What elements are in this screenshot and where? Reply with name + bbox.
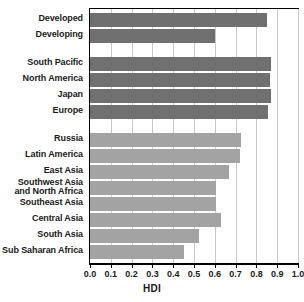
x-tick-label: 0.6: [209, 269, 222, 279]
bar-row: [90, 89, 298, 103]
category-label: Sub Saharan Africa: [2, 246, 83, 256]
x-tick-label: 0.0: [84, 269, 97, 279]
x-tick: [256, 263, 257, 268]
x-tick-label: 0.9: [271, 269, 284, 279]
bar-row: [90, 197, 298, 211]
bar: [90, 213, 221, 227]
plot-area: [89, 8, 299, 264]
bar-row: [90, 229, 298, 243]
category-label: Japan: [57, 90, 83, 100]
x-tick-label: 0.1: [105, 269, 118, 279]
category-label-column: DevelopedDevelopingSouth PacificNorth Am…: [0, 8, 86, 262]
bar-row: [90, 29, 298, 43]
bar-row: [90, 57, 298, 71]
x-tick-label: 0.3: [146, 269, 159, 279]
bar: [90, 105, 268, 119]
category-label: South Pacific: [27, 58, 83, 68]
bar: [90, 89, 271, 103]
bar-row: [90, 73, 298, 87]
bar: [90, 29, 215, 43]
bar-row: [90, 181, 298, 195]
category-label: North America: [23, 74, 83, 84]
category-label: Latin America: [25, 150, 83, 160]
x-tick-label: 0.7: [229, 269, 242, 279]
bar: [90, 73, 270, 87]
x-tick-label: 0.5: [188, 269, 201, 279]
bar-row: [90, 165, 298, 179]
category-label: Developed: [38, 14, 83, 24]
x-tick: [152, 263, 153, 268]
bar: [90, 229, 199, 243]
bar: [90, 13, 267, 27]
category-label: Southeast Asia: [20, 198, 83, 208]
category-label: Developing: [35, 30, 83, 40]
category-label: South Asia: [37, 230, 83, 240]
x-tick-label: 0.8: [250, 269, 263, 279]
bar: [90, 197, 216, 211]
bar-row: [90, 149, 298, 163]
bar: [90, 149, 240, 163]
x-tick: [277, 263, 278, 268]
gridline-1.0: [298, 9, 299, 263]
category-label: Russia: [54, 134, 83, 144]
x-axis-title: HDI: [0, 283, 304, 294]
category-label: Central Asia: [32, 214, 83, 224]
x-tick: [173, 263, 174, 268]
x-tick: [236, 263, 237, 268]
x-tick: [215, 263, 216, 268]
bar-row: [90, 105, 298, 119]
x-tick: [90, 263, 91, 268]
category-label: Europe: [53, 106, 83, 116]
x-tick: [298, 263, 299, 268]
bar-row: [90, 13, 298, 27]
x-tick: [132, 263, 133, 268]
bar: [90, 165, 229, 179]
x-tick-label: 0.2: [125, 269, 138, 279]
category-label: East Asia: [44, 166, 83, 176]
bar: [90, 57, 271, 71]
bar: [90, 133, 241, 147]
bar-row: [90, 245, 298, 259]
bar: [90, 181, 216, 195]
x-tick: [111, 263, 112, 268]
bar: [90, 245, 184, 259]
x-tick-label: 1.0: [292, 269, 304, 279]
x-tick-label: 0.4: [167, 269, 180, 279]
hdi-bar-chart: DevelopedDevelopingSouth PacificNorth Am…: [0, 0, 304, 302]
bar-row: [90, 133, 298, 147]
x-tick: [194, 263, 195, 268]
category-label: Southwest Asia and North Africa: [14, 178, 83, 197]
bar-row: [90, 213, 298, 227]
